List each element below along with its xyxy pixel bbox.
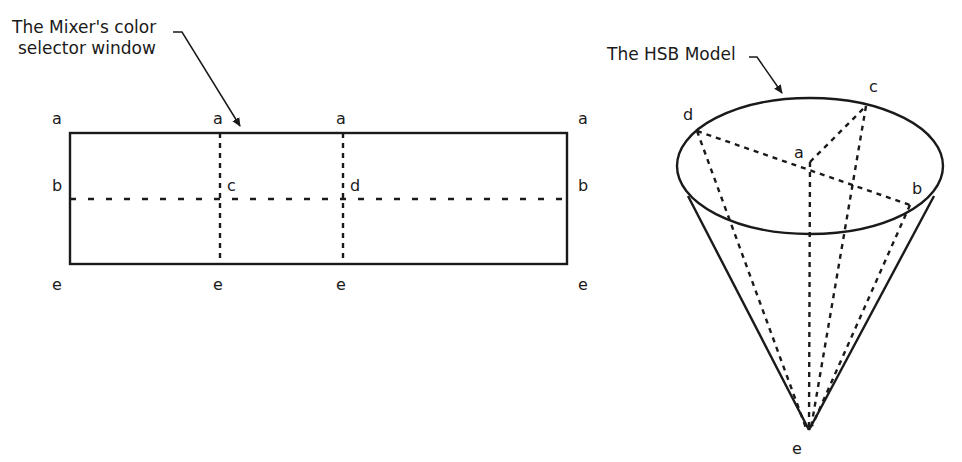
mixer-caption-line1: The Mixer's color [11,17,156,37]
dashed-a-to-c [810,106,866,162]
hsb-label-b: b [912,179,922,198]
hsb-label-c: c [869,77,878,96]
hsb-caption: The HSB Model [606,44,736,64]
cone-right-side [809,196,934,430]
hsb-label-d: d [683,105,693,124]
label-e-2: e [213,275,223,294]
label-c: c [227,176,236,195]
hsb-label-a: a [794,143,804,162]
label-e-1: e [52,275,62,294]
label-b-left: b [52,176,62,195]
mixer-leader-arrow [173,32,240,126]
label-b-right: b [578,176,588,195]
label-e-3: e [336,275,346,294]
label-a-3: a [336,109,346,128]
cone-left-side [688,196,809,430]
mixer-window-diagram: The Mixer's color selector window a a a … [11,17,588,294]
hsb-cone-diagram: The HSB Model d c a b e [606,44,943,458]
hsb-label-e: e [792,439,802,458]
dashed-d-to-e [697,131,806,428]
label-a-2: a [213,109,223,128]
mixer-caption-line2: selector window [18,38,156,58]
dashed-b-to-e [812,205,910,426]
diagram-canvas: The Mixer's color selector window a a a … [0,0,962,462]
label-e-4: e [578,275,588,294]
dashed-a-to-e [809,162,810,428]
label-a-4: a [578,109,588,128]
hsb-leader-arrow [749,57,782,93]
label-d: d [350,176,360,195]
label-a-1: a [52,109,62,128]
